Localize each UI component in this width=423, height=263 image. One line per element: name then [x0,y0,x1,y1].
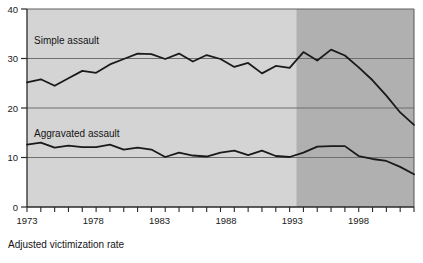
y-axis-label-20: 20 [7,103,18,114]
series-label-aggravated-assault: Aggravated assault [34,128,120,139]
x-axis-label-1993: 1993 [282,215,303,226]
chart-container: 40 30 20 10 0 1973 1978 1983 1988 1993 1… [0,0,423,263]
x-tick-marks [27,207,414,212]
assault-rate-line-chart: 40 30 20 10 0 1973 1978 1983 1988 1993 1… [0,0,423,263]
y-axis-label-0: 0 [13,202,18,213]
x-axis-label-1998: 1998 [348,215,369,226]
y-tick-marks [21,9,27,207]
x-axis-label-1988: 1988 [215,215,236,226]
x-axis-label-1973: 1973 [16,215,37,226]
x-axis-label-1978: 1978 [83,215,104,226]
y-axis-label-40: 40 [7,4,18,15]
y-axis-label-10: 10 [7,152,18,163]
x-axis-label-1983: 1983 [149,215,170,226]
series-label-simple-assault: Simple assault [34,35,99,46]
y-axis-label-30: 30 [7,53,18,64]
x-axis-caption: Adjusted victimization rate [8,239,125,250]
